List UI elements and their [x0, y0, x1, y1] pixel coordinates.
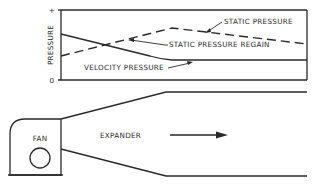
velocity-pressure-leader: [168, 63, 190, 68]
y-axis-zero-label: 0: [50, 76, 55, 85]
static-pressure-leader-arrowhead: [205, 28, 211, 33]
velocity-pressure-arrowhead: [187, 61, 193, 65]
static-pressure-regain-leader: [131, 40, 168, 45]
fan-label: FAN: [33, 134, 48, 143]
velocity-pressure-label: VELOCITY PRESSURE: [84, 63, 164, 72]
y-axis-title: PRESSURE: [46, 25, 55, 65]
expander-top-edge: [61, 92, 307, 119]
expander-label: EXPANDER: [100, 131, 141, 140]
duct-drawing: FAN EXPANDER: [8, 92, 307, 176]
fan-expander-pressure-diagram: + 0 PRESSURE STATIC PRESSURE STATIC PRES…: [0, 0, 314, 186]
flow-direction-arrow-icon: [216, 132, 228, 139]
static-pressure-label: STATIC PRESSURE: [224, 17, 293, 26]
fan-wheel-icon: [30, 148, 50, 168]
expander-bottom-edge: [61, 149, 307, 176]
pressure-graph: + 0 PRESSURE STATIC PRESSURE STATIC PRES…: [46, 6, 307, 85]
static-pressure-regain-label: STATIC PRESSURE REGAIN: [169, 40, 270, 49]
y-axis-plus-label: +: [49, 6, 55, 15]
